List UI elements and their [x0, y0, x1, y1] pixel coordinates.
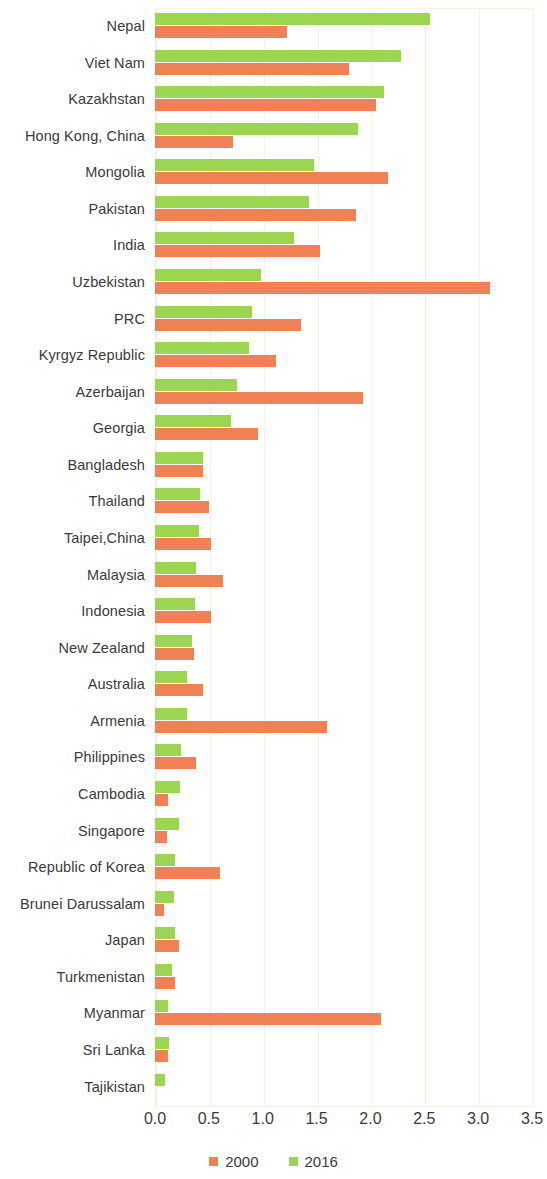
bar-2016	[155, 452, 203, 464]
category-label: Mongolia	[85, 154, 145, 191]
category-label: Nepal	[107, 8, 145, 45]
category-label: Malaysia	[87, 557, 145, 594]
chart-row: Mongolia	[0, 154, 547, 191]
category-label: Cambodia	[78, 776, 145, 813]
x-axis: 0.00.51.01.52.02.53.03.5	[0, 1110, 547, 1140]
chart-row: New Zealand	[0, 630, 547, 667]
chart-row: Armenia	[0, 703, 547, 740]
category-label: Armenia	[90, 703, 145, 740]
category-label: Indonesia	[81, 593, 145, 630]
chart-row: Thailand	[0, 483, 547, 520]
bar-2016	[155, 818, 179, 830]
category-label: Sri Lanka	[83, 1032, 145, 1069]
bar-group	[155, 483, 535, 520]
bar-2016	[155, 1000, 168, 1012]
x-tick-label: 2.5	[394, 1110, 454, 1128]
category-label: Australia	[88, 666, 145, 703]
bar-group	[155, 666, 535, 703]
bar-group	[155, 1069, 535, 1106]
bar-2000	[155, 867, 220, 879]
bar-group	[155, 886, 535, 923]
bar-2016	[155, 196, 309, 208]
bar-group	[155, 264, 535, 301]
x-tick-label: 2.0	[340, 1110, 400, 1128]
bar-group	[155, 813, 535, 850]
chart-row: Nepal	[0, 8, 547, 45]
chart-row: Brunei Darussalam	[0, 886, 547, 923]
chart-legend: 20002016	[0, 1148, 547, 1174]
bar-group	[155, 776, 535, 813]
bar-group	[155, 81, 535, 118]
bar-2000	[155, 26, 287, 38]
bar-group	[155, 703, 535, 740]
bar-2000	[155, 99, 376, 111]
bar-2000	[155, 904, 164, 916]
category-label: Tajikistan	[84, 1069, 145, 1106]
bar-2000	[155, 209, 356, 221]
chart-row: Cambodia	[0, 776, 547, 813]
x-tick-label: 0.0	[125, 1110, 185, 1128]
bar-group	[155, 374, 535, 411]
bar-2016	[155, 635, 192, 647]
x-tick-label: 3.0	[448, 1110, 508, 1128]
category-label: Thailand	[89, 483, 145, 520]
bar-2000	[155, 319, 301, 331]
bar-group	[155, 227, 535, 264]
chart-row: Hong Kong, China	[0, 118, 547, 155]
bar-2000	[155, 392, 363, 404]
bar-2000	[155, 136, 233, 148]
bar-2000	[155, 1013, 381, 1025]
chart-row: Sri Lanka	[0, 1032, 547, 1069]
bar-2016	[155, 379, 237, 391]
bar-2016	[155, 232, 294, 244]
chart-row: Japan	[0, 922, 547, 959]
category-label: Bangladesh	[67, 447, 145, 484]
chart-row: Singapore	[0, 813, 547, 850]
category-label: India	[113, 227, 145, 264]
bar-2016	[155, 854, 175, 866]
bar-2016	[155, 598, 195, 610]
category-label: Pakistan	[89, 191, 145, 228]
category-label: Georgia	[93, 410, 145, 447]
chart-row: Myanmar	[0, 995, 547, 1032]
bar-2000	[155, 940, 179, 952]
category-label: Uzbekistan	[72, 264, 145, 301]
bar-2016	[155, 159, 314, 171]
bar-2016	[155, 342, 249, 354]
chart-row: PRC	[0, 301, 547, 338]
bar-2000	[155, 428, 258, 440]
category-label: Republic of Korea	[28, 849, 145, 886]
bar-group	[155, 739, 535, 776]
legend-item[interactable]: 2000	[209, 1153, 258, 1170]
legend-item[interactable]: 2016	[289, 1153, 338, 1170]
chart-row: Malaysia	[0, 557, 547, 594]
bar-2000	[155, 1050, 168, 1062]
chart-row: Kyrgyz Republic	[0, 337, 547, 374]
chart-row: Pakistan	[0, 191, 547, 228]
bar-2016	[155, 525, 199, 537]
bar-group	[155, 8, 535, 45]
chart-row: Kazakhstan	[0, 81, 547, 118]
x-tick-label: 1.5	[287, 1110, 347, 1128]
bar-2016	[155, 744, 181, 756]
bar-2000	[155, 648, 194, 660]
chart-row: Turkmenistan	[0, 959, 547, 996]
bar-2000	[155, 831, 167, 843]
category-label: Japan	[105, 922, 145, 959]
bar-group	[155, 959, 535, 996]
chart-row: Indonesia	[0, 593, 547, 630]
category-label: Turkmenistan	[57, 959, 146, 996]
bar-group	[155, 447, 535, 484]
chart-row: Taipei,China	[0, 520, 547, 557]
x-tick-label: 0.5	[179, 1110, 239, 1128]
bar-chart: NepalViet NamKazakhstanHong Kong, ChinaM…	[0, 0, 547, 1179]
bar-2000	[155, 684, 203, 696]
chart-row: Tajikistan	[0, 1069, 547, 1106]
chart-row: Bangladesh	[0, 447, 547, 484]
bar-2016	[155, 671, 187, 683]
legend-swatch-icon	[209, 1157, 218, 1166]
chart-row: Uzbekistan	[0, 264, 547, 301]
bar-2000	[155, 575, 223, 587]
bar-group	[155, 995, 535, 1032]
chart-rows: NepalViet NamKazakhstanHong Kong, ChinaM…	[0, 0, 547, 1110]
